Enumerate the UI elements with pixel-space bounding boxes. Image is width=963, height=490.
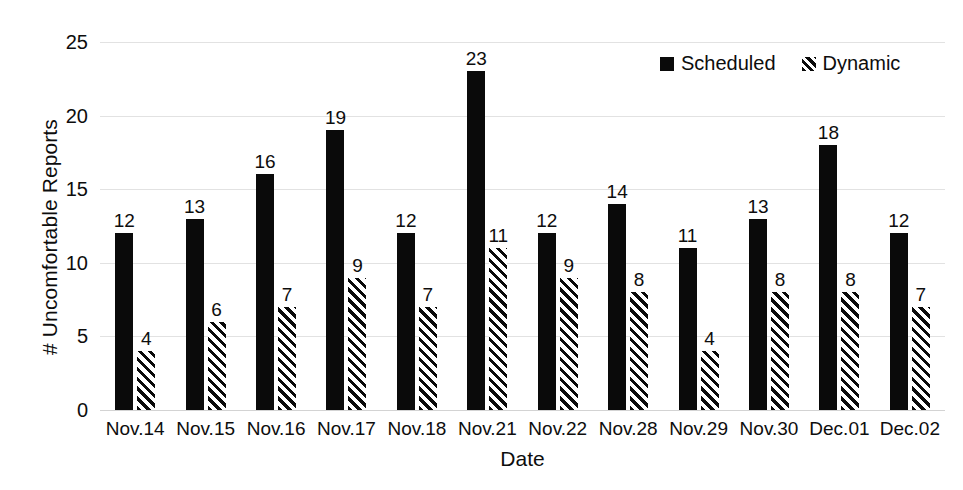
legend-solid-square-icon <box>660 57 674 71</box>
bar-scheduled[interactable]: 14 <box>608 204 626 410</box>
x-tick-label: Nov.16 <box>241 418 311 440</box>
bar-chart: # Uncomfortable Reports 2520151050 12413… <box>0 0 963 490</box>
y-axis-ticks: 2520151050 <box>0 0 100 490</box>
bar-groups: 1241361671991272311129148114138188127 <box>100 42 945 410</box>
x-tick-label: Nov.22 <box>523 418 593 440</box>
x-axis-title: Date <box>100 447 945 471</box>
bar-scheduled[interactable]: 13 <box>749 219 767 410</box>
bar-scheduled[interactable]: 23 <box>467 71 485 410</box>
bar-value-label: 23 <box>466 49 487 68</box>
x-tick-label: Nov.18 <box>382 418 452 440</box>
bar-value-label: 7 <box>916 285 927 304</box>
bar-group: 136 <box>170 42 240 410</box>
bar-group: 167 <box>241 42 311 410</box>
bar-scheduled[interactable]: 16 <box>256 174 274 410</box>
bar-value-label: 11 <box>488 226 508 245</box>
bar-dynamic[interactable]: 6 <box>208 322 226 410</box>
bar-value-label: 4 <box>141 329 152 348</box>
bar-pair: 167 <box>255 42 297 410</box>
x-tick-label: Dec.01 <box>804 418 874 440</box>
chart-legend: ScheduledDynamic <box>660 52 900 75</box>
bar-group: 127 <box>382 42 452 410</box>
y-tick-label: 20 <box>66 106 88 126</box>
bar-pair: 124 <box>114 42 156 410</box>
bar-value-label: 11 <box>678 226 698 245</box>
x-tick-label: Nov.17 <box>311 418 381 440</box>
legend-label: Scheduled <box>681 52 776 75</box>
bar-value-label: 12 <box>536 211 557 230</box>
x-tick-label: Nov.21 <box>452 418 522 440</box>
x-axis-ticks: Nov.14Nov.15Nov.16Nov.17Nov.18Nov.21Nov.… <box>100 418 945 440</box>
y-tick-label: 0 <box>77 400 88 420</box>
bar-pair: 127 <box>396 42 438 410</box>
bar-dynamic[interactable]: 8 <box>771 292 789 410</box>
legend-hatched-square-icon <box>802 57 816 71</box>
bar-group: 138 <box>734 42 804 410</box>
bar-dynamic[interactable]: 4 <box>701 351 719 410</box>
x-tick-label: Nov.30 <box>734 418 804 440</box>
bar-group: 188 <box>804 42 874 410</box>
bar-dynamic[interactable]: 4 <box>137 351 155 410</box>
axis-baseline <box>100 410 945 411</box>
legend-label: Dynamic <box>823 52 901 75</box>
bar-scheduled[interactable]: 12 <box>538 233 556 410</box>
bar-group: 148 <box>593 42 663 410</box>
bar-value-label: 12 <box>888 211 909 230</box>
y-tick-label: 5 <box>77 326 88 346</box>
bar-pair: 138 <box>748 42 790 410</box>
x-tick-label: Nov.14 <box>100 418 170 440</box>
bar-value-label: 8 <box>845 270 856 289</box>
bar-value-label: 19 <box>325 108 346 127</box>
x-tick-label: Nov.29 <box>663 418 733 440</box>
legend-item[interactable]: Scheduled <box>660 52 776 75</box>
bar-scheduled[interactable]: 19 <box>326 130 344 410</box>
bar-scheduled[interactable]: 18 <box>819 145 837 410</box>
x-tick-label: Dec.02 <box>875 418 945 440</box>
bar-dynamic[interactable]: 9 <box>348 278 366 410</box>
y-tick-label: 10 <box>66 253 88 273</box>
y-tick-label: 15 <box>66 179 88 199</box>
bar-value-label: 14 <box>607 182 628 201</box>
bar-pair: 136 <box>185 42 227 410</box>
bar-group: 2311 <box>452 42 522 410</box>
bar-value-label: 13 <box>184 197 205 216</box>
bar-scheduled[interactable]: 12 <box>890 233 908 410</box>
bar-dynamic[interactable]: 7 <box>278 307 296 410</box>
y-tick-label: 25 <box>66 32 88 52</box>
bar-value-label: 16 <box>254 152 275 171</box>
bar-value-label: 18 <box>818 123 839 142</box>
x-tick-label: Nov.15 <box>170 418 240 440</box>
bar-group: 114 <box>663 42 733 410</box>
bar-value-label: 7 <box>282 285 293 304</box>
bar-scheduled[interactable]: 13 <box>186 219 204 410</box>
bar-pair: 129 <box>537 42 579 410</box>
bar-value-label: 6 <box>211 300 222 319</box>
bar-value-label: 8 <box>634 270 645 289</box>
bar-dynamic[interactable]: 7 <box>419 307 437 410</box>
bar-pair: 127 <box>889 42 931 410</box>
bar-value-label: 13 <box>747 197 768 216</box>
bar-scheduled[interactable]: 12 <box>397 233 415 410</box>
bar-value-label: 9 <box>563 256 574 275</box>
bar-value-label: 12 <box>114 211 135 230</box>
bar-dynamic[interactable]: 7 <box>912 307 930 410</box>
bar-scheduled[interactable]: 11 <box>679 248 697 410</box>
bar-dynamic[interactable]: 9 <box>560 278 578 410</box>
bar-pair: 148 <box>607 42 649 410</box>
plot-area: 1241361671991272311129148114138188127 <box>100 42 945 410</box>
bar-pair: 114 <box>678 42 720 410</box>
bar-pair: 188 <box>818 42 860 410</box>
bar-pair: 199 <box>325 42 367 410</box>
bar-pair: 2311 <box>466 42 508 410</box>
bar-value-label: 7 <box>423 285 434 304</box>
legend-item[interactable]: Dynamic <box>802 52 901 75</box>
bar-value-label: 8 <box>775 270 786 289</box>
bar-dynamic[interactable]: 8 <box>630 292 648 410</box>
bar-dynamic[interactable]: 11 <box>489 248 507 410</box>
bar-value-label: 9 <box>352 256 363 275</box>
bar-dynamic[interactable]: 8 <box>841 292 859 410</box>
bar-scheduled[interactable]: 12 <box>115 233 133 410</box>
bar-group: 129 <box>523 42 593 410</box>
bar-group: 127 <box>875 42 945 410</box>
bar-group: 199 <box>311 42 381 410</box>
